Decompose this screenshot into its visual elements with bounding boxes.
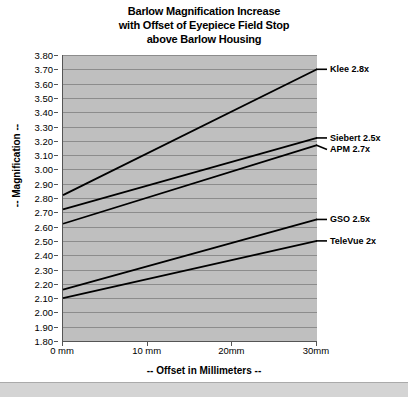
y-axis-tick-mark bbox=[54, 169, 58, 170]
y-axis-tick-labels: 1.801.902.002.102.202.302.402.502.602.70… bbox=[0, 55, 58, 345]
y-axis-tick-mark bbox=[54, 284, 58, 285]
series-line bbox=[63, 138, 317, 210]
chart-title-line-2: with Offset of Eyepiece Field Stop bbox=[0, 18, 408, 32]
y-axis-tick-label: 2.70 bbox=[35, 208, 54, 217]
plot-area bbox=[62, 55, 317, 342]
y-axis-tick-label: 2.00 bbox=[35, 308, 54, 317]
y-axis-tick-mark bbox=[54, 241, 58, 242]
series-line bbox=[63, 69, 317, 195]
y-axis-tick-label: 3.60 bbox=[35, 80, 54, 89]
series-line bbox=[63, 241, 317, 298]
chart-container: Barlow Magnification Increase with Offse… bbox=[0, 0, 408, 397]
series-label: APM 2.7x bbox=[330, 144, 370, 154]
y-axis-tick-mark bbox=[54, 341, 58, 342]
x-axis-title: -- Offset in Millimeters -- bbox=[0, 365, 408, 376]
y-axis-tick-label: 2.60 bbox=[35, 223, 54, 232]
y-axis-tick-label: 3.00 bbox=[35, 165, 54, 174]
y-axis-tick-label: 2.20 bbox=[35, 280, 54, 289]
y-axis-tick-label: 2.40 bbox=[35, 251, 54, 260]
y-axis-tick-mark bbox=[54, 270, 58, 271]
y-axis-tick-label: 3.40 bbox=[35, 108, 54, 117]
y-axis-tick-label: 3.20 bbox=[35, 137, 54, 146]
y-axis-tick-label: 3.50 bbox=[35, 94, 54, 103]
y-axis-tick-mark bbox=[54, 69, 58, 70]
y-axis-tick-mark bbox=[54, 141, 58, 142]
x-axis-tick-label: 0 mm bbox=[50, 345, 74, 356]
y-axis-tick-label: 2.90 bbox=[35, 180, 54, 189]
series-lines bbox=[63, 55, 317, 341]
bottom-strip bbox=[0, 382, 408, 397]
series-label: Klee 2.8x bbox=[330, 64, 369, 74]
y-axis-tick-mark bbox=[54, 255, 58, 256]
y-axis-tick-mark bbox=[54, 212, 58, 213]
y-axis-tick-label: 1.90 bbox=[35, 323, 54, 332]
y-axis-tick-label: 3.80 bbox=[35, 51, 54, 60]
y-axis-tick-mark bbox=[54, 198, 58, 199]
y-axis-tick-mark bbox=[54, 127, 58, 128]
y-axis-tick-label: 3.30 bbox=[35, 123, 54, 132]
y-axis-tick-label: 2.80 bbox=[35, 194, 54, 203]
series-line bbox=[63, 219, 317, 289]
x-axis-tick-labels: 0 mm10 mm20mm30mm bbox=[0, 345, 408, 361]
y-axis-tick-mark bbox=[54, 298, 58, 299]
chart-title-line-3: above Barlow Housing bbox=[0, 32, 408, 46]
y-axis-tick-mark bbox=[54, 155, 58, 156]
y-axis-tick-mark bbox=[54, 227, 58, 228]
series-label: GSO 2.5x bbox=[330, 214, 370, 224]
y-axis-tick-label: 3.70 bbox=[35, 65, 54, 74]
y-axis-tick-mark bbox=[54, 112, 58, 113]
y-axis-tick-mark bbox=[54, 184, 58, 185]
y-axis-tick-mark bbox=[54, 84, 58, 85]
y-axis-tick-label: 2.50 bbox=[35, 237, 54, 246]
series-line bbox=[63, 145, 317, 224]
x-axis-tick-label: 10 mm bbox=[132, 345, 161, 356]
y-axis-tick-label: 3.10 bbox=[35, 151, 54, 160]
chart-title-line-1: Barlow Magnification Increase bbox=[0, 4, 408, 18]
series-label: Siebert 2.5x bbox=[330, 133, 381, 143]
x-axis-tick-label: 30mm bbox=[303, 345, 329, 356]
series-label: TeleVue 2x bbox=[330, 236, 376, 246]
x-axis-tick-label: 20mm bbox=[218, 345, 244, 356]
y-axis-tick-mark bbox=[54, 312, 58, 313]
y-axis-tick-mark bbox=[54, 327, 58, 328]
y-axis-tick-mark bbox=[54, 55, 58, 56]
y-axis-tick-mark bbox=[54, 98, 58, 99]
chart-title: Barlow Magnification Increase with Offse… bbox=[0, 4, 408, 46]
y-axis-tick-label: 2.30 bbox=[35, 266, 54, 275]
y-axis-tick-label: 2.10 bbox=[35, 294, 54, 303]
